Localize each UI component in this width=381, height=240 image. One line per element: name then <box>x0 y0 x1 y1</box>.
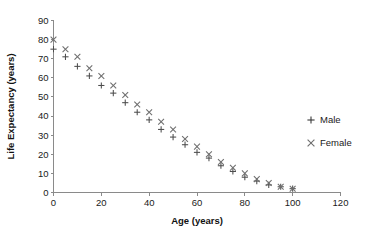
legend-label-male: Male <box>320 114 341 125</box>
x-tick-label-80: 80 <box>240 197 251 208</box>
data-point-female-5 <box>63 46 69 52</box>
data-point-male-5 <box>62 54 68 60</box>
data-point-female-15 <box>86 65 92 71</box>
data-point-male-45 <box>158 126 164 132</box>
x-tick-label-40: 40 <box>144 197 155 208</box>
data-point-female-30 <box>122 92 128 98</box>
data-point-female-55 <box>182 136 188 142</box>
legend-label-female: Female <box>320 137 352 148</box>
data-point-male-50 <box>170 134 176 140</box>
x-tick-label-60: 60 <box>192 197 203 208</box>
data-point-male-30 <box>122 100 128 106</box>
x-axis-title: Age (years) <box>171 215 223 226</box>
data-point-male-55 <box>182 142 188 148</box>
data-point-female-50 <box>170 127 176 133</box>
chart-canvas: 0102030405060708090020406080100120Age (y… <box>0 0 381 240</box>
data-point-male-60 <box>194 149 200 155</box>
y-tick-label-80: 80 <box>38 34 49 45</box>
x-tick-label-100: 100 <box>285 197 301 208</box>
scatter-chart: 0102030405060708090020406080100120Age (y… <box>0 0 381 240</box>
data-point-male-20 <box>98 82 104 88</box>
y-tick-label-60: 60 <box>38 72 49 83</box>
data-point-male-10 <box>74 63 80 69</box>
data-point-male-25 <box>110 90 116 96</box>
data-point-male-15 <box>86 73 92 79</box>
data-point-male-40 <box>146 117 152 123</box>
data-point-male-35 <box>134 109 140 115</box>
x-tick-label-0: 0 <box>51 197 56 208</box>
data-point-female-35 <box>134 102 140 108</box>
data-point-female-20 <box>98 73 104 79</box>
x-tick-label-120: 120 <box>333 197 349 208</box>
data-point-female-10 <box>75 54 81 60</box>
y-tick-label-40: 40 <box>38 110 49 121</box>
legend-item-female[interactable]: Female <box>308 137 352 148</box>
y-tick-label-70: 70 <box>38 53 49 64</box>
data-point-female-60 <box>194 144 200 150</box>
series-male <box>50 46 295 192</box>
data-point-male-0 <box>50 46 56 52</box>
data-point-female-40 <box>146 109 152 115</box>
y-tick-label-90: 90 <box>38 15 49 26</box>
y-tick-label-30: 30 <box>38 130 49 141</box>
y-tick-label-20: 20 <box>38 149 49 160</box>
y-tick-label-0: 0 <box>43 187 48 198</box>
data-point-female-25 <box>110 83 116 89</box>
y-tick-label-10: 10 <box>38 168 49 179</box>
series-female <box>51 37 296 192</box>
legend: MaleFemale <box>307 114 351 148</box>
legend-item-male[interactable]: Male <box>307 114 340 125</box>
y-tick-label-50: 50 <box>38 91 49 102</box>
data-point-female-45 <box>158 119 164 125</box>
x-tick-label-20: 20 <box>96 197 107 208</box>
y-axis-title: Life Expectancy (years) <box>5 53 16 159</box>
